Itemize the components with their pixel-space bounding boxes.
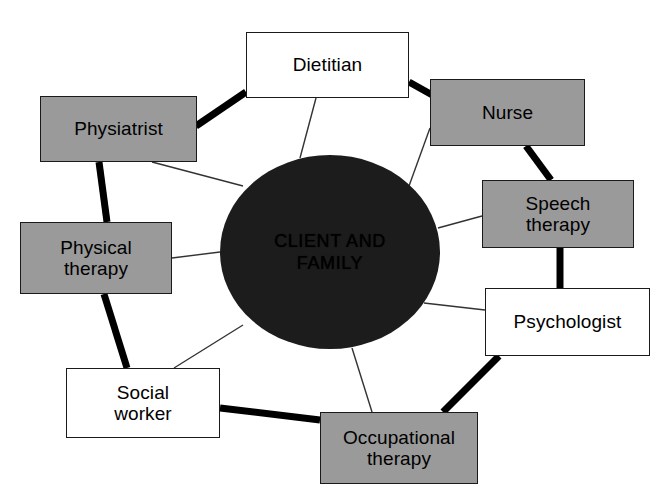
center-hub-label: CLIENT AND FAMILY bbox=[274, 230, 386, 275]
center-hub-client-and-family: CLIENT AND FAMILY bbox=[220, 155, 440, 349]
link-psychologist-to-occupational-therapy bbox=[443, 356, 499, 412]
node-dietitian[interactable]: Dietitian bbox=[246, 32, 409, 98]
spoke-psychologist-to-hub bbox=[424, 303, 485, 310]
link-physiatrist-to-dietitian bbox=[196, 92, 246, 126]
node-physical-therapy[interactable]: Physical therapy bbox=[20, 222, 172, 294]
node-nurse[interactable]: Nurse bbox=[430, 79, 585, 146]
spoke-physical-therapy-to-hub bbox=[172, 252, 220, 258]
spoke-physiatrist-to-hub bbox=[152, 162, 243, 186]
spoke-speech-therapy-to-hub bbox=[438, 216, 482, 228]
node-occupational-therapy[interactable]: Occupational therapy bbox=[320, 412, 478, 484]
link-social-worker-to-physical-therapy bbox=[104, 294, 127, 368]
node-physiatrist[interactable]: Physiatrist bbox=[40, 96, 197, 162]
node-label-social-worker: Social worker bbox=[114, 382, 172, 425]
spoke-occupational-therapy-to-hub bbox=[352, 348, 372, 412]
node-label-physiatrist: Physiatrist bbox=[74, 118, 163, 139]
spoke-social-worker-to-hub bbox=[174, 325, 243, 368]
node-psychologist[interactable]: Psychologist bbox=[485, 288, 650, 356]
node-label-physical-therapy: Physical therapy bbox=[60, 237, 132, 280]
link-physical-therapy-to-physiatrist bbox=[99, 162, 107, 222]
team-care-diagram: CLIENT AND FAMILY DietitianNurseSpeech t… bbox=[0, 0, 658, 495]
node-label-psychologist: Psychologist bbox=[514, 311, 622, 332]
spoke-nurse-to-hub bbox=[409, 128, 430, 186]
link-occupational-therapy-to-social-worker bbox=[220, 408, 320, 420]
node-label-speech-therapy: Speech therapy bbox=[525, 193, 590, 236]
spoke-dietitian-to-hub bbox=[300, 98, 316, 158]
node-label-nurse: Nurse bbox=[482, 102, 533, 123]
link-nurse-to-speech-therapy bbox=[526, 146, 551, 180]
node-label-dietitian: Dietitian bbox=[293, 54, 363, 75]
node-speech-therapy[interactable]: Speech therapy bbox=[482, 180, 634, 248]
node-social-worker[interactable]: Social worker bbox=[66, 368, 220, 438]
node-label-occupational-therapy: Occupational therapy bbox=[343, 427, 455, 470]
